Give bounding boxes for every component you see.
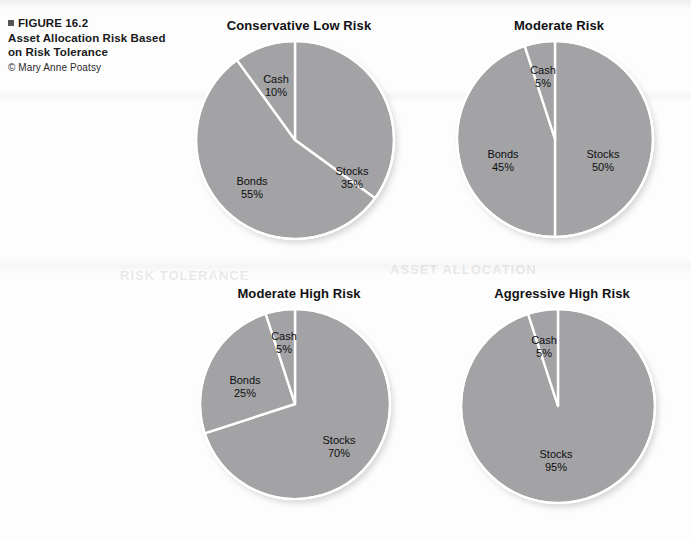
pie-graphic: Stocks70%Bonds25%Cash5% — [199, 308, 399, 508]
figure-credit: © Mary Anne Poatsy — [8, 61, 188, 74]
pie-svg — [195, 40, 403, 248]
slice-label-name: Bonds — [487, 148, 518, 160]
pie-slice-label-cash: Cash5% — [531, 334, 557, 360]
figure-page: ASSET ALLOCATIONRISK TOLERANCE FIGURE 16… — [0, 0, 691, 541]
pie-svg — [456, 40, 662, 246]
slice-label-value: 70% — [322, 447, 355, 460]
figure-caption: FIGURE 16.2 Asset Allocation Risk Based … — [8, 16, 188, 74]
scan-band-artifact-lower — [0, 258, 691, 274]
slice-label-name: Stocks — [539, 448, 572, 460]
page-top-edge-artifact — [0, 0, 691, 10]
slice-label-name: Cash — [263, 73, 289, 85]
ghost-text-artifact: ASSET ALLOCATION — [390, 262, 537, 277]
pie-slice-stocks[interactable] — [555, 41, 653, 237]
square-bullet-icon — [8, 20, 14, 26]
pie-chart-4: Aggressive High RiskStocks95%Cash5% — [460, 286, 664, 514]
pie-chart-title: Moderate High Risk — [198, 286, 400, 301]
pie-chart-3: Moderate High RiskStocks70%Bonds25%Cash5… — [198, 286, 400, 510]
pie-graphic: Stocks50%Bonds45%Cash5% — [456, 40, 662, 246]
pie-chart-title: Conservative Low Risk — [196, 18, 402, 33]
slice-label-value: 5% — [530, 77, 556, 90]
slice-label-name: Stocks — [335, 165, 368, 177]
slice-label-value: 5% — [531, 347, 557, 360]
ghost-text-artifact: RISK TOLERANCE — [120, 268, 249, 283]
pie-slice-label-cash: Cash5% — [271, 330, 297, 356]
slice-label-name: Cash — [531, 334, 557, 346]
slice-label-value: 25% — [229, 387, 260, 400]
slice-label-value: 35% — [335, 178, 368, 191]
pie-slice-label-stocks: Stocks50% — [586, 148, 619, 174]
pie-chart-title: Aggressive High Risk — [460, 286, 664, 301]
pie-slice-label-bonds: Bonds55% — [236, 175, 267, 201]
pie-slice-label-cash: Cash5% — [530, 64, 556, 90]
pie-graphic: Stocks95%Cash5% — [460, 308, 664, 512]
slice-label-name: Stocks — [322, 434, 355, 446]
pie-graphic: Stocks35%Bonds55%Cash10% — [195, 40, 403, 248]
pie-svg — [199, 308, 399, 508]
pie-svg — [460, 308, 664, 512]
slice-label-value: 95% — [539, 461, 572, 474]
slice-label-value: 50% — [586, 161, 619, 174]
pie-slice-label-stocks: Stocks70% — [322, 434, 355, 460]
pie-slice-label-cash: Cash10% — [263, 73, 289, 99]
pie-chart-1: Conservative Low RiskStocks35%Bonds55%Ca… — [196, 18, 402, 250]
slice-label-value: 5% — [271, 343, 297, 356]
slice-label-value: 10% — [263, 86, 289, 99]
figure-label-line: FIGURE 16.2 — [8, 16, 188, 31]
figure-label: FIGURE 16.2 — [18, 17, 88, 29]
slice-label-name: Stocks — [586, 148, 619, 160]
pie-slice-label-stocks: Stocks95% — [539, 448, 572, 474]
figure-title-line-1: Asset Allocation Risk Based — [8, 31, 188, 46]
slice-label-name: Bonds — [229, 374, 260, 386]
slice-label-name: Cash — [530, 64, 556, 76]
pie-slice-label-bonds: Bonds25% — [229, 374, 260, 400]
pie-slice-label-stocks: Stocks35% — [335, 165, 368, 191]
slice-label-value: 45% — [487, 161, 518, 174]
pie-chart-2: Moderate RiskStocks50%Bonds45%Cash5% — [458, 18, 660, 248]
figure-title-line-2: on Risk Tolerance — [8, 45, 188, 60]
slice-label-name: Bonds — [236, 175, 267, 187]
pie-chart-title: Moderate Risk — [458, 18, 660, 33]
slice-label-name: Cash — [271, 330, 297, 342]
slice-label-value: 55% — [236, 188, 267, 201]
pie-slice-label-bonds: Bonds45% — [487, 148, 518, 174]
